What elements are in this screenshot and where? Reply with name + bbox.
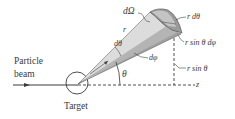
label-r-sin-theta: r sin θ — [187, 65, 207, 73]
leader-r-sin-theta — [175, 64, 186, 68]
leader-r-sin-theta-dphi — [178, 35, 184, 42]
label-target: Target — [64, 102, 88, 112]
label-d-theta: dθ — [114, 40, 122, 48]
label-d-phi: dφ — [149, 54, 157, 62]
label-z-axis: z — [196, 81, 199, 89]
target-circle — [66, 72, 88, 94]
label-r-dtheta: r dθ — [187, 13, 200, 21]
leader-r-dtheta — [176, 17, 186, 20]
label-r: r — [123, 26, 126, 34]
label-beam-line2: beam — [14, 70, 35, 80]
label-beam-line1: Particle — [14, 57, 43, 67]
label-solid-angle: dΩ — [123, 7, 135, 17]
label-r-sin-theta-dphi: r sin θ dφ — [185, 39, 216, 47]
scattering-diagram: dΩ r dθ dφ θ r dθ r sin θ dφ r sin θ z P… — [0, 0, 235, 119]
label-theta: θ — [122, 70, 127, 80]
beam-arrow-icon — [24, 83, 30, 87]
